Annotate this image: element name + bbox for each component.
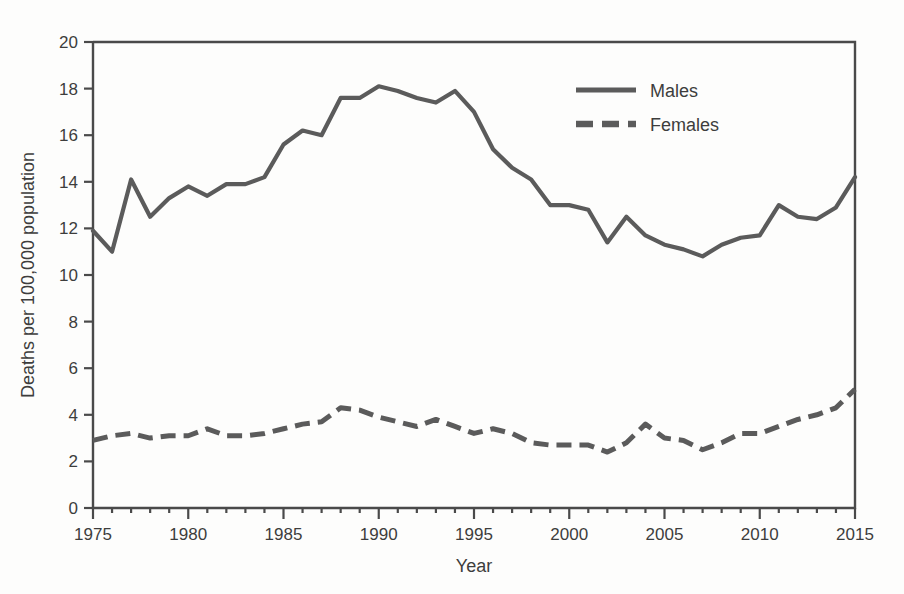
- x-tick-label: 2000: [550, 525, 588, 544]
- x-tick-label: 1995: [455, 525, 493, 544]
- y-tick-label: 20: [59, 33, 78, 52]
- x-tick-label: 2015: [836, 525, 874, 544]
- x-tick-label: 1990: [360, 525, 398, 544]
- y-axis-title: Deaths per 100,000 population: [18, 152, 38, 398]
- y-tick-label: 18: [59, 80, 78, 99]
- chart-figure: 02468101214161820 1975198019851990199520…: [0, 0, 904, 594]
- y-tick-label: 14: [59, 173, 78, 192]
- y-axis-ticks: [84, 42, 93, 508]
- x-tick-label: 2010: [741, 525, 779, 544]
- legend-label-females: Females: [650, 115, 719, 135]
- x-axis-tick-labels: 197519801985199019952000200520102015: [74, 525, 874, 544]
- y-tick-label: 16: [59, 126, 78, 145]
- y-tick-label: 2: [69, 452, 78, 471]
- x-tick-label: 2005: [646, 525, 684, 544]
- chart-legend: Males Females: [576, 81, 719, 135]
- x-axis-title: Year: [456, 556, 492, 576]
- x-tick-label: 1980: [169, 525, 207, 544]
- series-group: [93, 86, 855, 452]
- x-tick-label: 1985: [265, 525, 303, 544]
- y-tick-label: 8: [69, 313, 78, 332]
- y-axis-tick-labels: 02468101214161820: [59, 33, 78, 518]
- y-tick-label: 4: [69, 406, 78, 425]
- x-axis-ticks: [93, 508, 855, 519]
- x-tick-label: 1975: [74, 525, 112, 544]
- y-tick-label: 12: [59, 219, 78, 238]
- series-line-males: [93, 86, 855, 256]
- line-chart: 02468101214161820 1975198019851990199520…: [0, 0, 904, 594]
- legend-label-males: Males: [650, 81, 698, 101]
- series-line-females: [93, 389, 855, 452]
- y-tick-label: 10: [59, 266, 78, 285]
- y-tick-label: 6: [69, 359, 78, 378]
- y-tick-label: 0: [69, 499, 78, 518]
